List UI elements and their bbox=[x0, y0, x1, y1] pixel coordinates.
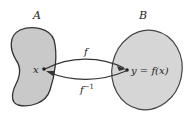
arrow-f-label: f bbox=[83, 46, 90, 57]
set-a-label: A bbox=[32, 9, 41, 22]
function-diagram: A B x y = f(x) f f−1 bbox=[0, 0, 191, 122]
set-b-label: B bbox=[138, 9, 147, 22]
point-y bbox=[125, 68, 129, 72]
arrow-f-inverse-label: f−1 bbox=[79, 83, 94, 95]
point-x bbox=[42, 67, 46, 71]
point-x-label: x bbox=[33, 64, 39, 75]
point-y-label: y = f(x) bbox=[130, 65, 169, 76]
inverse-superscript: −1 bbox=[84, 83, 94, 91]
